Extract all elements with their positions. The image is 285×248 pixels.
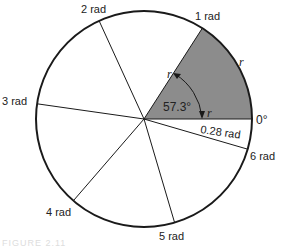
label-1-rad: 1 rad: [195, 10, 220, 22]
label-r-radius-lower: r: [207, 106, 212, 120]
label-r-arc: r: [239, 55, 244, 69]
label-3-rad: 3 rad: [2, 95, 27, 107]
label-6-rad: 6 rad: [250, 150, 275, 162]
figure-caption: FIGURE 2.11: [2, 238, 66, 248]
spoke-2-rad: [99, 21, 144, 119]
spoke-4-rad: [73, 119, 144, 201]
spoke-3-rad: [37, 104, 144, 119]
label-5-rad: 5 rad: [159, 230, 184, 242]
label-2-rad: 2 rad: [81, 3, 106, 15]
shaded-sector-one-radian: [144, 28, 252, 119]
label-zero-degrees: 0°: [256, 113, 268, 127]
label-angle-57-3: 57.3°: [163, 100, 191, 114]
spoke-5-rad: [144, 119, 175, 223]
label-4-rad: 4 rad: [46, 206, 71, 218]
label-r-radius-upper: r: [167, 67, 172, 81]
label-remainder: 0.28 rad: [200, 123, 242, 141]
radian-circle-diagram: 1 rad 2 rad 3 rad 4 rad 5 rad 6 rad 0° 0…: [0, 0, 285, 248]
